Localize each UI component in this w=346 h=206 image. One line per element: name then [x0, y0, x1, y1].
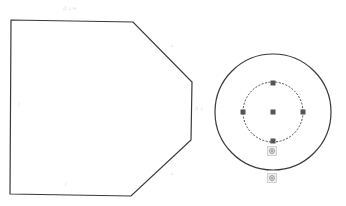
constraint-glyph-icon: // ⟂ [195, 105, 204, 111]
handle-center[interactable] [271, 110, 276, 115]
constraint-glyph-icon: ⟂ [170, 42, 174, 48]
handle-top[interactable] [271, 81, 276, 86]
sketch-canvas[interactable]: // ⟂ =⟂// ⟂//⟂ [0, 0, 346, 206]
handle-left[interactable] [241, 110, 246, 115]
handle-right[interactable] [301, 110, 306, 115]
constraint-glyphs: // ⟂ =⟂// ⟂//⟂ [18, 5, 204, 187]
hexagon-sketch[interactable] [10, 20, 192, 196]
constraint-glyph-icon: // ⟂ = [63, 5, 77, 11]
inner-circle-anchor-icon[interactable] [268, 147, 277, 156]
circle-handles[interactable] [241, 81, 306, 144]
constraint-glyph-icon: / [65, 181, 67, 187]
constraint-glyph-icon: / [18, 101, 20, 107]
anchor-icons[interactable] [268, 147, 277, 183]
handle-bottom[interactable] [271, 139, 276, 144]
outer-circle-anchor-icon[interactable] [268, 174, 277, 183]
constraint-glyph-icon: ⟂ [170, 170, 174, 176]
